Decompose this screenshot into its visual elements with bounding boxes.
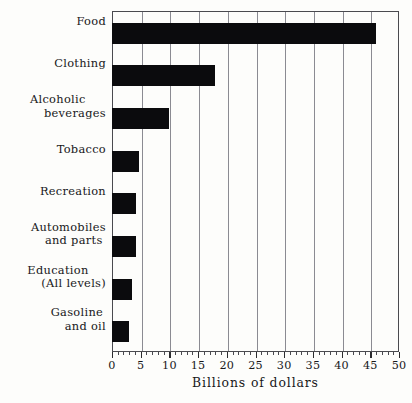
category-label: Recreation <box>40 185 106 198</box>
x-tick-minor <box>123 352 124 355</box>
category-label: Education(All levels) <box>27 264 106 290</box>
x-tick-minor <box>296 352 297 355</box>
bar <box>112 193 136 214</box>
x-tick-minor <box>365 352 366 355</box>
bar <box>112 279 132 300</box>
category-label-column: FoodClothingAlcoholicbeveragesTobaccoRec… <box>0 0 110 352</box>
x-tick-minor <box>135 352 136 355</box>
category-label-line1: Food <box>77 15 107 28</box>
x-tick-minor <box>129 352 130 355</box>
x-tick-minor <box>158 352 159 355</box>
x-tick-major <box>141 352 142 358</box>
x-tick-label: 0 <box>108 359 115 372</box>
x-tick-minor <box>278 352 279 355</box>
category-label-line1: Alcoholic <box>30 93 106 106</box>
bar-chart: FoodClothingAlcoholicbeveragesTobaccoRec… <box>0 0 412 403</box>
bar <box>112 23 376 44</box>
x-tick-minor <box>250 352 251 355</box>
x-tick-minor <box>324 352 325 355</box>
category-label: Gasolineand oil <box>51 306 106 332</box>
x-tick-minor <box>261 352 262 355</box>
x-tick-minor <box>233 352 234 355</box>
category-label-line2: and oil <box>51 320 106 333</box>
x-tick-minor <box>388 352 389 355</box>
x-tick-minor <box>330 352 331 355</box>
x-tick-minor <box>152 352 153 355</box>
category-label: Automobilesand parts <box>31 221 106 247</box>
x-tick-minor <box>210 352 211 355</box>
x-tick-minor <box>382 352 383 355</box>
x-tick-minor <box>267 352 268 355</box>
category-label: Tobacco <box>57 143 106 156</box>
category-label: Food <box>77 15 107 28</box>
x-tick-minor <box>238 352 239 355</box>
category-label: Clothing <box>54 57 106 70</box>
x-tick-major <box>399 352 400 358</box>
x-tick-label: 40 <box>334 359 349 372</box>
x-tick-label: 25 <box>248 359 263 372</box>
x-tick-minor <box>215 352 216 355</box>
x-tick-minor <box>164 352 165 355</box>
x-tick-label: 10 <box>162 359 177 372</box>
x-tick-minor <box>204 352 205 355</box>
x-tick-minor <box>146 352 147 355</box>
x-tick-minor <box>192 352 193 355</box>
x-tick-major <box>227 352 228 358</box>
x-tick-minor <box>347 352 348 355</box>
x-tick-label: 45 <box>363 359 378 372</box>
x-tick-minor <box>221 352 222 355</box>
x-tick-minor <box>290 352 291 355</box>
category-label: Alcoholicbeverages <box>30 93 106 119</box>
x-tick-minor <box>336 352 337 355</box>
x-tick-label: 30 <box>277 359 292 372</box>
x-axis-title: Billions of dollars <box>112 375 399 390</box>
x-tick-minor <box>353 352 354 355</box>
x-tick-minor <box>301 352 302 355</box>
category-label-line2: (All levels) <box>27 277 106 290</box>
x-tick-minor <box>118 352 119 355</box>
bar <box>112 108 169 129</box>
x-tick-label: 20 <box>219 359 234 372</box>
bar <box>112 151 139 172</box>
x-tick-major <box>256 352 257 358</box>
x-tick-major <box>284 352 285 358</box>
x-tick-minor <box>307 352 308 355</box>
bar <box>112 236 136 257</box>
x-tick-major <box>370 352 371 358</box>
x-tick-minor <box>181 352 182 355</box>
x-tick-major <box>313 352 314 358</box>
x-tick-minor <box>273 352 274 355</box>
x-tick-label: 50 <box>392 359 407 372</box>
category-label-line1: Clothing <box>54 57 106 70</box>
x-tick-minor <box>244 352 245 355</box>
category-label-line2: beverages <box>30 107 106 120</box>
bar <box>112 65 215 86</box>
x-tick-minor <box>359 352 360 355</box>
bars-layer <box>112 11 399 352</box>
category-label-line1: Recreation <box>40 185 106 198</box>
category-label-line2: and parts <box>31 234 106 247</box>
x-tick-label: 5 <box>137 359 144 372</box>
x-tick-minor <box>376 352 377 355</box>
x-tick-major <box>112 352 113 358</box>
category-label-line1: Gasoline <box>51 306 106 319</box>
x-tick-minor <box>319 352 320 355</box>
x-tick-major <box>198 352 199 358</box>
x-tick-major <box>169 352 170 358</box>
category-label-line1: Tobacco <box>57 143 106 156</box>
bar <box>112 321 129 342</box>
x-tick-label: 35 <box>306 359 321 372</box>
x-tick-minor <box>187 352 188 355</box>
x-tick-label: 15 <box>191 359 206 372</box>
x-tick-minor <box>175 352 176 355</box>
x-axis: Billions of dollars 05101520253035404550 <box>112 352 399 403</box>
x-tick-minor <box>393 352 394 355</box>
x-tick-major <box>342 352 343 358</box>
